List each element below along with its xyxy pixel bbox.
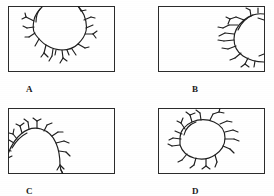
panel-c-crack-drawing	[8, 108, 115, 174]
panel-c-label: C	[26, 187, 33, 196]
panel-a-crack-drawing	[8, 6, 115, 72]
panel-a	[8, 6, 115, 72]
panel-d-label: D	[192, 187, 199, 196]
panel-b	[158, 6, 265, 72]
panel-b-crack-drawing	[158, 6, 265, 72]
panel-a-label: A	[26, 85, 33, 94]
panel-d	[158, 108, 265, 174]
panel-b-label: B	[192, 85, 198, 94]
panel-c	[8, 108, 115, 174]
figure-root: A	[0, 0, 274, 196]
panel-d-crack-drawing	[158, 108, 265, 174]
